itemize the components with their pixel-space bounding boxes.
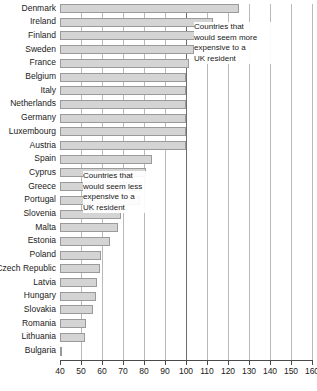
gridline-90 bbox=[165, 4, 166, 360]
tick-70 bbox=[123, 361, 124, 365]
bar bbox=[60, 100, 186, 109]
bar bbox=[60, 292, 96, 301]
bar bbox=[60, 45, 194, 54]
bar bbox=[60, 347, 62, 356]
category-label: Hungary bbox=[24, 291, 56, 300]
price-level-bar-chart: DenmarkIrelandFinlandSwedenFranceBelgium… bbox=[0, 0, 317, 391]
annotation-more-expensive: Countries that would seem more expensive… bbox=[194, 22, 278, 64]
tick-160 bbox=[312, 361, 313, 365]
gridline-160 bbox=[312, 4, 313, 360]
category-label: Finland bbox=[28, 31, 56, 40]
bar bbox=[60, 305, 93, 314]
category-label: Belgium bbox=[25, 72, 56, 81]
bar bbox=[60, 223, 118, 232]
bar bbox=[60, 141, 186, 150]
bar bbox=[60, 4, 239, 13]
category-label: Slovenia bbox=[23, 209, 56, 218]
bar bbox=[60, 251, 101, 260]
category-label: Portugal bbox=[24, 195, 56, 204]
tick-80 bbox=[144, 361, 145, 365]
bar bbox=[60, 73, 186, 82]
category-label: Denmark bbox=[22, 4, 56, 13]
category-label: Estonia bbox=[28, 236, 56, 245]
annotation-less-expensive: Countries that would seem less expensive… bbox=[83, 171, 163, 213]
category-label: Austria bbox=[30, 141, 56, 150]
category-label: Czech Republic bbox=[0, 264, 56, 273]
category-axis-labels: DenmarkIrelandFinlandSwedenFranceBelgium… bbox=[0, 0, 58, 362]
gridline-150 bbox=[291, 4, 292, 360]
tick-140 bbox=[270, 361, 271, 365]
category-label: Bulgaria bbox=[25, 346, 56, 355]
category-label: Germany bbox=[21, 113, 56, 122]
category-label: Greece bbox=[28, 182, 56, 191]
category-label: Lithuania bbox=[21, 332, 56, 341]
bar bbox=[60, 264, 100, 273]
tick-60 bbox=[102, 361, 103, 365]
category-label: Spain bbox=[34, 154, 56, 163]
category-label: Italy bbox=[40, 86, 56, 95]
category-label: Luxembourg bbox=[9, 127, 56, 136]
bar bbox=[60, 237, 110, 246]
tick-120 bbox=[228, 361, 229, 365]
bar bbox=[60, 127, 186, 136]
category-label: Romania bbox=[22, 319, 56, 328]
bar bbox=[60, 86, 186, 95]
category-label: Malta bbox=[35, 223, 56, 232]
bar bbox=[60, 278, 97, 287]
bar bbox=[60, 18, 213, 27]
gridline-100 bbox=[186, 4, 187, 360]
bar bbox=[60, 31, 211, 40]
tick-40 bbox=[60, 361, 61, 365]
tick-100 bbox=[186, 361, 187, 365]
bar bbox=[60, 333, 85, 342]
tick-50 bbox=[81, 361, 82, 365]
category-label: France bbox=[30, 58, 56, 67]
bar bbox=[60, 319, 86, 328]
category-label: Cyprus bbox=[29, 168, 56, 177]
tick-150 bbox=[291, 361, 292, 365]
category-label: Ireland bbox=[30, 17, 56, 26]
tick-90 bbox=[165, 361, 166, 365]
category-label: Poland bbox=[30, 250, 56, 259]
bar bbox=[60, 114, 186, 123]
category-label: Netherlands bbox=[10, 99, 56, 108]
category-label: Slovakia bbox=[24, 305, 56, 314]
category-label: Latvia bbox=[33, 278, 56, 287]
bar bbox=[60, 59, 189, 68]
tick-label-160: 160 bbox=[300, 366, 317, 376]
bar bbox=[60, 155, 152, 164]
category-label: Sweden bbox=[25, 45, 56, 54]
tick-130 bbox=[249, 361, 250, 365]
tick-110 bbox=[207, 361, 208, 365]
